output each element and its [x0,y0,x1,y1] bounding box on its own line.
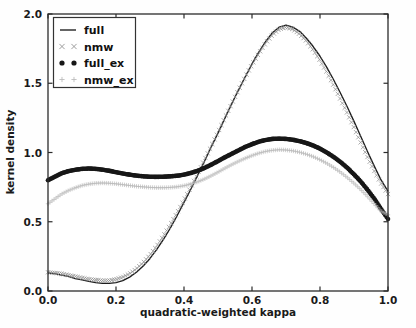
y-axis-title: kernel density [4,110,16,195]
chart-figure: 0.00.20.40.60.81.0 0.00.51.01.52.0 quadr… [0,0,416,328]
x-tick-label: 1.0 [379,294,398,306]
y-tick-label: 1.0 [23,147,42,159]
x-tick-label: 0.2 [107,294,126,306]
x-tick-label: 0.4 [175,294,194,306]
x-axis-title: quadratic-weighted kappa [140,306,296,318]
chart-legend: fullnmwfull_exnmw_ex [54,18,136,88]
legend-dot-icon [59,60,64,65]
x-tick-label: 0.8 [311,294,330,306]
x-tick-label: 0.6 [243,294,262,306]
legend-label-full_ex: full_ex [84,57,124,70]
kernel-density-plot: 0.00.20.40.60.81.0 0.00.51.01.52.0 quadr… [0,0,416,328]
legend-label-full: full [84,24,104,37]
legend-label-nmw: nmw [84,41,113,54]
y-tick-label: 0.5 [23,216,42,228]
y-tick-label: 1.5 [23,77,42,89]
y-tick-label: 0.0 [23,285,42,297]
legend-dot-icon [71,60,76,65]
legend-label-nmw_ex: nmw_ex [84,74,134,87]
y-tick-label: 2.0 [23,8,42,20]
